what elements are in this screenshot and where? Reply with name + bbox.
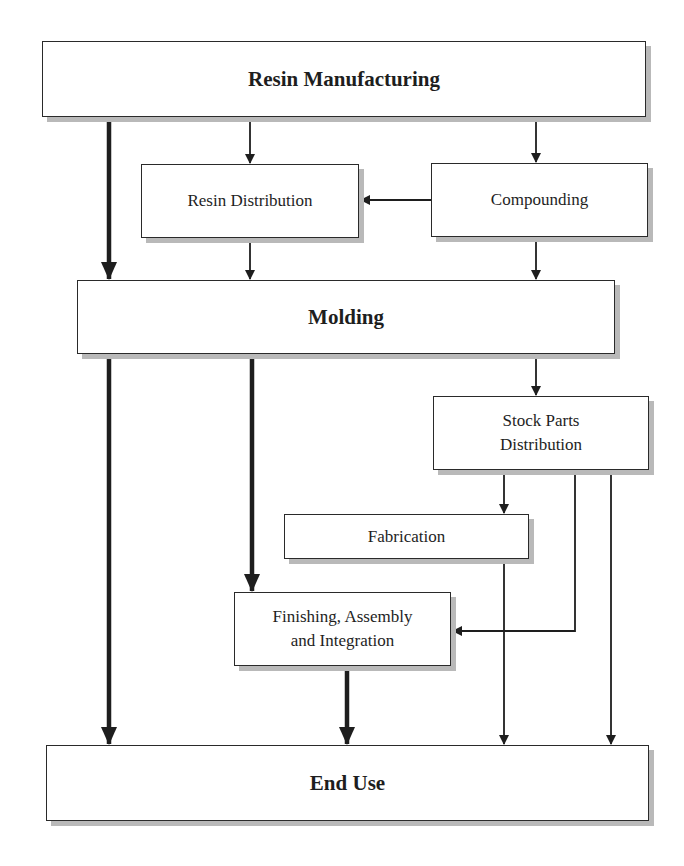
node-resin-distribution: Resin Distribution: [141, 164, 359, 238]
node-label: Resin Distribution: [187, 189, 312, 213]
node-resin-manufacturing: Resin Manufacturing: [42, 41, 646, 117]
flowchart-canvas: Resin Manufacturing Resin Distribution C…: [0, 0, 684, 866]
node-label: Stock Parts Distribution: [500, 409, 582, 457]
node-stock-parts-distribution: Stock Parts Distribution: [433, 396, 649, 470]
node-label: Compounding: [491, 188, 588, 212]
node-end-use: End Use: [46, 745, 649, 821]
node-label: Resin Manufacturing: [248, 67, 440, 92]
node-label: Molding: [308, 305, 384, 330]
node-fabrication: Fabrication: [284, 514, 529, 559]
node-finishing-assembly-integration: Finishing, Assembly and Integration: [234, 592, 451, 666]
node-label: Fabrication: [368, 525, 445, 549]
node-label: Finishing, Assembly and Integration: [273, 605, 413, 653]
node-molding: Molding: [77, 280, 615, 354]
node-compounding: Compounding: [431, 163, 648, 237]
node-label: End Use: [310, 771, 385, 796]
